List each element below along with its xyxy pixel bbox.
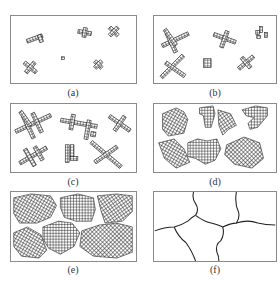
panel-label-a: (a) bbox=[10, 88, 136, 98]
panel-label-e: (e) bbox=[10, 265, 136, 275]
panel-f bbox=[153, 191, 277, 262]
grain-boundary-network-icon bbox=[154, 192, 276, 261]
panel-a bbox=[10, 15, 137, 84]
panel-c bbox=[10, 103, 137, 173]
panel-d bbox=[153, 103, 277, 173]
panel-b bbox=[153, 15, 277, 84]
panel-label-b: (b) bbox=[152, 88, 278, 98]
panel-e bbox=[10, 191, 137, 262]
branched-dendrites-icon bbox=[11, 104, 136, 172]
panel-label-c: (c) bbox=[10, 177, 136, 187]
nuclei-small-icon bbox=[11, 16, 136, 83]
impinging-grains-icon bbox=[11, 192, 136, 261]
panel-label-d: (d) bbox=[152, 177, 278, 187]
panel-label-f: (f) bbox=[152, 265, 278, 275]
dendrite-crosses-icon bbox=[154, 16, 276, 83]
compact-grains-icon bbox=[154, 104, 276, 172]
